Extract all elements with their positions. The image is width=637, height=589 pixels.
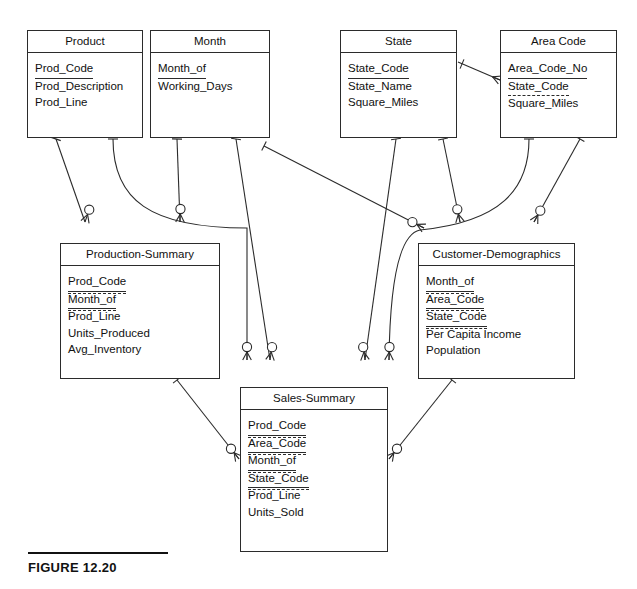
entity-title-sales-summary: Sales-Summary bbox=[241, 388, 387, 410]
attribute-pkfk: Prod_Code bbox=[248, 418, 387, 436]
attribute-label: State_Name bbox=[348, 79, 412, 96]
erd-diagram: ProductProd_CodeProd_DescriptionProd_Lin… bbox=[0, 0, 637, 589]
relationship-state-area-code bbox=[458, 59, 502, 84]
entity-product[interactable]: ProductProd_CodeProd_DescriptionProd_Lin… bbox=[27, 30, 143, 138]
entity-title-production-summary: Production-Summary bbox=[61, 244, 219, 266]
attribute-label: Month_of bbox=[68, 292, 116, 310]
relationship-state-customer-demographics bbox=[438, 138, 464, 223]
cardinality-many-prong-state-customer-demographics bbox=[456, 214, 459, 223]
cardinality-many-prong-month-sales-summary bbox=[271, 352, 274, 361]
attribute-plain: Prod_Line bbox=[35, 95, 142, 112]
relationship-state-sales-summary bbox=[359, 138, 401, 360]
relationship-product-production-summary bbox=[51, 137, 94, 223]
attribute-label: Prod_Description bbox=[35, 79, 123, 96]
cardinality-optional-circle-state-sales-summary bbox=[359, 343, 368, 352]
entity-customer-demographics[interactable]: Customer-DemographicsMonth_ofArea_CodeSt… bbox=[418, 243, 575, 379]
cardinality-many-prong-state-sales-summary bbox=[361, 352, 364, 361]
cardinality-one-tick-state-sales-summary bbox=[391, 138, 401, 139]
attribute-pkfk: Month_of bbox=[248, 453, 387, 471]
cardinality-optional-circle-areacode-sales-summary bbox=[385, 342, 394, 351]
entity-area-code[interactable]: Area CodeArea_Code_NoState_CodeSquare_Mi… bbox=[500, 30, 617, 138]
attribute-list-production-summary: Prod_CodeMonth_ofProd_LineUnits_Produced… bbox=[61, 266, 219, 359]
attribute-label: Working_Days bbox=[158, 79, 233, 96]
cardinality-one-tick-month-customer-demographics bbox=[262, 142, 267, 151]
cardinality-optional-circle-customer-demographics-sales-summary bbox=[392, 444, 401, 453]
entity-sales-summary[interactable]: Sales-SummaryProd_CodeArea_CodeMonth_ofS… bbox=[240, 387, 388, 552]
attribute-list-month: Month_ofWorking_Days bbox=[151, 53, 269, 95]
figure-caption: FIGURE 12.20 bbox=[28, 552, 168, 575]
entity-month[interactable]: MonthMonth_ofWorking_Days bbox=[150, 30, 270, 138]
attribute-list-sales-summary: Prod_CodeArea_CodeMonth_ofState_CodeProd… bbox=[241, 410, 387, 521]
relationship-line-state-sales-summary bbox=[365, 139, 396, 360]
attribute-label: Per Capita Income bbox=[426, 327, 521, 344]
cardinality-many-prong-product-production-summary bbox=[88, 214, 89, 223]
relationship-line-month-customer-demographics bbox=[264, 146, 424, 228]
relationship-month-customer-demographics bbox=[262, 142, 426, 232]
attribute-plain: Units_Produced bbox=[68, 326, 219, 343]
relationship-areacode-customer-demographics bbox=[530, 137, 584, 225]
attribute-pkfk: Area_Code bbox=[248, 436, 387, 454]
attribute-label: Avg_Inventory bbox=[68, 342, 141, 359]
attribute-label: State_Code bbox=[348, 61, 409, 79]
attribute-label: State_Code bbox=[248, 471, 309, 489]
cardinality-one-tick-month-sales-summary bbox=[231, 138, 241, 140]
attribute-label: Month_of bbox=[158, 61, 206, 79]
attribute-label: State_Code bbox=[508, 79, 569, 97]
relationship-line-product-production-summary bbox=[56, 139, 85, 222]
attribute-fk: State_Code bbox=[508, 79, 616, 97]
attribute-label: Prod_Line bbox=[35, 95, 87, 112]
attribute-label: Area_Code bbox=[248, 436, 306, 454]
relationship-production-summary-sales-summary bbox=[173, 377, 242, 462]
attribute-label: State_Code bbox=[426, 309, 487, 327]
entity-state[interactable]: StateState_CodeState_NameSquare_Miles bbox=[340, 30, 457, 138]
attribute-plain: State_Name bbox=[348, 79, 456, 96]
relationship-customer-demographics-sales-summary bbox=[386, 377, 456, 462]
attribute-pkfk: Prod_Code bbox=[68, 274, 219, 292]
attribute-plain: Population bbox=[426, 343, 574, 360]
attribute-label: Units_Produced bbox=[68, 326, 150, 343]
attribute-plain: Per Capita Income bbox=[426, 327, 574, 344]
attribute-list-area-code: Area_Code_NoState_CodeSquare_Miles bbox=[501, 53, 616, 113]
attribute-plain: Avg_Inventory bbox=[68, 342, 219, 359]
attribute-pk: State_Code bbox=[348, 61, 456, 79]
attribute-label: Prod_Code bbox=[68, 274, 126, 292]
attribute-label: Month_of bbox=[248, 453, 296, 471]
attribute-pkfk: State_Code bbox=[248, 471, 387, 489]
relationship-line-month-sales-summary bbox=[236, 139, 270, 360]
caption-rule bbox=[28, 552, 168, 554]
attribute-label: Prod_Line bbox=[68, 309, 120, 326]
attribute-pk: Area_Code_No bbox=[508, 61, 616, 79]
attribute-list-product: Prod_CodeProd_DescriptionProd_Line bbox=[28, 53, 142, 112]
entity-title-month: Month bbox=[151, 31, 269, 53]
attribute-label: Square_Miles bbox=[508, 96, 578, 113]
attribute-pkfk: Month_of bbox=[426, 274, 574, 292]
cardinality-many-prong-product-sales-summary bbox=[243, 352, 247, 360]
cardinality-optional-circle-state-customer-demographics bbox=[453, 205, 462, 214]
entity-production-summary[interactable]: Production-SummaryProd_CodeMonth_ofProd_… bbox=[60, 243, 220, 379]
attribute-label: Square_Miles bbox=[348, 95, 418, 112]
cardinality-optional-circle-month-sales-summary bbox=[267, 343, 276, 352]
attribute-pkfk: Month_of bbox=[68, 292, 219, 310]
cardinality-many-prong-month-production-summary bbox=[180, 214, 184, 222]
cardinality-many-prong-product-sales-summary bbox=[247, 352, 251, 360]
attribute-label: Area_Code bbox=[426, 292, 484, 310]
attribute-plain: Prod_Line bbox=[248, 488, 387, 505]
attribute-label: Prod_Line bbox=[248, 488, 300, 505]
attribute-plain: Square_Miles bbox=[348, 95, 456, 112]
cardinality-optional-circle-month-production-summary bbox=[176, 204, 185, 213]
attribute-label: Area_Code_No bbox=[508, 61, 587, 79]
attribute-list-customer-demographics: Month_ofArea_CodeState_CodePer Capita In… bbox=[419, 266, 574, 360]
relationship-month-sales-summary bbox=[231, 138, 277, 360]
cardinality-optional-circle-production-summary-sales-summary bbox=[226, 444, 235, 453]
attribute-label: Units_Sold bbox=[248, 505, 304, 522]
attribute-plain: Prod_Description bbox=[35, 79, 142, 96]
entity-title-product: Product bbox=[28, 31, 142, 53]
attribute-label: Month_of bbox=[426, 274, 474, 292]
entity-title-customer-demographics: Customer-Demographics bbox=[419, 244, 574, 266]
cardinality-optional-circle-areacode-customer-demographics bbox=[536, 206, 545, 215]
attribute-plain: Units_Sold bbox=[248, 505, 387, 522]
attribute-label: Population bbox=[426, 343, 480, 360]
cardinality-many-prong-areacode-sales-summary bbox=[389, 352, 393, 360]
attribute-label: Prod_Code bbox=[248, 418, 306, 436]
cardinality-optional-circle-month-customer-demographics bbox=[408, 217, 417, 226]
